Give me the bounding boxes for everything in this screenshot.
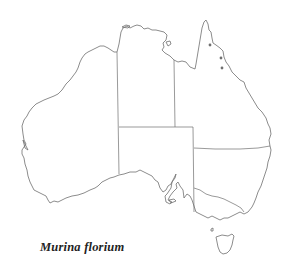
sa-qld-nsw-border: [193, 127, 194, 212]
qld-nsw-border: [194, 146, 270, 149]
nt-qld-border: [174, 60, 175, 127]
australia-distribution-map: [0, 0, 289, 276]
mainland-coastline: [22, 20, 271, 220]
kangaroo-island: [169, 199, 176, 203]
occurrence-point: [209, 44, 212, 47]
occurrence-point: [221, 67, 224, 70]
wa-border: [117, 52, 119, 174]
king-island: [211, 228, 213, 231]
species-label: Murina florium: [40, 240, 124, 255]
shark-bay: [23, 140, 28, 150]
groote-eylandt: [166, 41, 171, 46]
occurrence-point: [220, 57, 223, 60]
nsw-vic-border: [194, 188, 244, 212]
tasmania-outline: [216, 234, 234, 254]
